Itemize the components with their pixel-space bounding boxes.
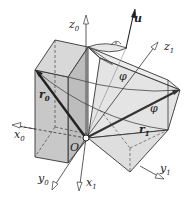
label-y1: y1 <box>159 162 171 177</box>
rotated-box <box>88 47 180 175</box>
label-x1: x1 <box>86 176 97 191</box>
label-phi-right: φ <box>150 102 158 115</box>
original-box <box>35 40 88 163</box>
label-origin: O <box>70 141 79 154</box>
label-phi-top: φ <box>119 70 127 83</box>
label-z1: z1 <box>163 40 174 55</box>
origin-point <box>83 135 89 141</box>
label-x0: x0 <box>14 128 25 143</box>
label-z0: z0 <box>68 18 80 33</box>
rotation-diagram: O u φ φ r0 r1 z0 z1 x0 y0 x1 y1 <box>0 0 195 199</box>
label-y0: y0 <box>37 172 49 187</box>
label-u: u <box>134 12 142 25</box>
